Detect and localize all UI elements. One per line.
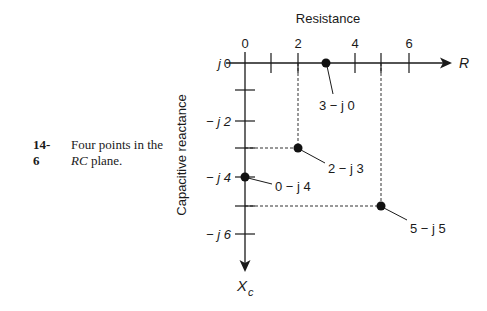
point-2-j3 [294,144,303,153]
r-tick-label-2: 2 [294,36,301,51]
xc-tick-label-0: j0 [216,56,231,71]
point-3-j0 [322,59,331,68]
r-tick-label-0: 0 [241,36,248,51]
xc-tick-label-2: − j 2 [206,114,232,129]
point-label-2-j3: 2 − j 3 [328,161,364,176]
r-tick-label-4: 4 [351,36,358,51]
point-5-j5 [377,202,386,211]
dashed-guides [245,63,381,206]
r-tick-label-6: 6 [405,36,412,51]
rc-plane-diagram: Resistance Capacitive reactance 0 2 4 [0,0,487,311]
point-label-3-j0: 3 − j 0 [319,98,355,113]
point-0-j4 [241,173,250,182]
point-label-0-j4: 0 − j 4 [275,179,311,194]
reactance-axis-title: Capacitive reactance [174,94,189,215]
xc-tick-label-6: − j 6 [206,227,232,242]
leader-lines [248,66,407,220]
resistance-axis-title: Resistance [296,11,360,26]
xc-tick-label-4: − j 4 [206,170,231,185]
point-label-5-j5: 5 − j 5 [410,221,446,236]
r-axis-symbol: R [459,55,469,71]
xc-axis-symbol: Xc [236,277,254,298]
